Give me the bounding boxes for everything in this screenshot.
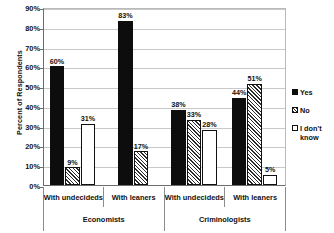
y-axis-tick-label: 20%: [10, 142, 40, 151]
bar-chart: Percent of Respondents 90%80%70%60%50%40…: [0, 0, 334, 233]
solid-black-square-icon: [292, 89, 298, 95]
empty-square-icon: [292, 125, 298, 131]
bar-value-label: 31%: [76, 115, 101, 122]
bar-no: [65, 167, 80, 185]
legend-item-label: I don't know: [300, 124, 334, 142]
bar-yes: [171, 110, 186, 185]
legend-item[interactable]: No: [292, 106, 334, 115]
bar-value-label: 28%: [197, 121, 222, 128]
y-axis-tick-label: 50%: [10, 83, 40, 92]
bar-yes: [50, 66, 65, 185]
bar-value-label: 51%: [242, 75, 267, 82]
bar-value-label: 83%: [113, 12, 138, 19]
bar-value-label: 17%: [129, 143, 154, 150]
y-axis-tick-labels: 90%80%70%60%50%40%30%20%10%0%: [10, 8, 40, 186]
x-axis-category: With undecideds: [43, 187, 104, 207]
bar-yes: [232, 98, 247, 185]
bars-layer: 60%9%31%83%17%38%33%28%44%51%5%: [44, 9, 285, 185]
x-axis-category: With undecideds: [165, 187, 226, 207]
y-axis-tick-label: 10%: [10, 162, 40, 171]
y-axis-tick-label: 70%: [10, 43, 40, 52]
legend-item-label: No: [300, 106, 310, 115]
bar-value-label: 60%: [45, 58, 70, 65]
y-axis-tick-label: 80%: [10, 23, 40, 32]
x-axis-group: Criminologists: [165, 207, 287, 231]
bar-value-label: 5%: [258, 166, 283, 173]
y-axis-tick-label: 30%: [10, 122, 40, 131]
x-axis-group-label: Economists: [83, 215, 125, 224]
y-axis-tick-label: 0%: [10, 182, 40, 191]
x-axis: With undecidedsWith leanersWith undecide…: [43, 187, 286, 233]
bar-value-label: 33%: [182, 111, 207, 118]
legend-item[interactable]: I don't know: [292, 124, 334, 142]
y-axis-tick-label: 40%: [10, 102, 40, 111]
x-axis-group: Economists: [43, 207, 165, 231]
x-axis-category-label: With undecideds: [165, 193, 224, 202]
plot-area: 60%9%31%83%17%38%33%28%44%51%5%: [43, 8, 286, 186]
x-axis-category-label: With leaners: [112, 193, 156, 202]
bar-value-label: 38%: [166, 101, 191, 108]
legend-item-label: Yes: [300, 88, 313, 97]
bar-yes: [118, 21, 133, 185]
bar-i-dont-know: [263, 175, 278, 185]
hatched-square-icon: [292, 107, 298, 113]
bar-i-dont-know: [81, 124, 96, 185]
y-axis-tick-label: 90%: [10, 4, 40, 13]
legend-item[interactable]: Yes: [292, 88, 334, 97]
x-axis-category-label: With leaners: [233, 193, 277, 202]
x-axis-category-label: With undecideds: [44, 193, 103, 202]
y-axis-tick-label: 60%: [10, 63, 40, 72]
chart-legend: YesNoI don't know: [292, 88, 334, 151]
bar-no: [134, 151, 149, 185]
bar-no: [187, 120, 202, 185]
x-axis-group-label: Criminologists: [199, 215, 251, 224]
x-axis-category: With leaners: [104, 187, 165, 207]
bar-i-dont-know: [202, 130, 217, 185]
x-axis-category: With leaners: [225, 187, 286, 207]
